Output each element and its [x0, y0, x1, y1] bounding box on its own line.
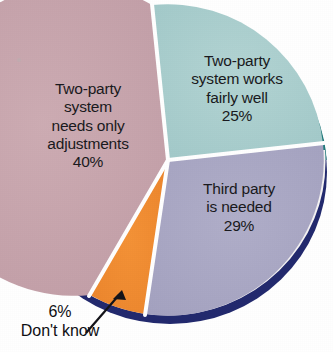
slice-label-two-party-works: Two-party system works fairly well 25% — [174, 52, 300, 125]
slice-label-two-party-adjustments: Two-party system needs only adjustments … — [22, 80, 154, 171]
scan-artifact-speck — [17, 58, 21, 62]
slice-callout-dont-know: 6% Don't know — [2, 302, 118, 340]
pie-chart-figure: Two-party system works fairly well 25% T… — [0, 0, 333, 352]
callout-percent-dont-know: 6% — [2, 302, 118, 321]
callout-text-dont-know: Don't know — [2, 321, 118, 340]
slice-label-third-party: Third party is needed 29% — [182, 180, 296, 235]
